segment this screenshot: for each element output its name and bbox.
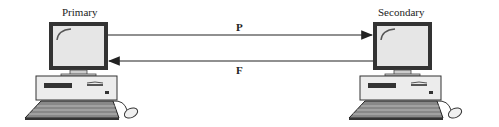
edge-f-label: F <box>236 64 243 76</box>
diagram-canvas <box>0 0 499 127</box>
edge-p-label: P <box>236 21 243 33</box>
primary-computer <box>25 22 139 120</box>
primary-label: Primary <box>62 6 97 18</box>
secondary-computer <box>349 22 463 120</box>
secondary-label: Secondary <box>378 6 424 18</box>
